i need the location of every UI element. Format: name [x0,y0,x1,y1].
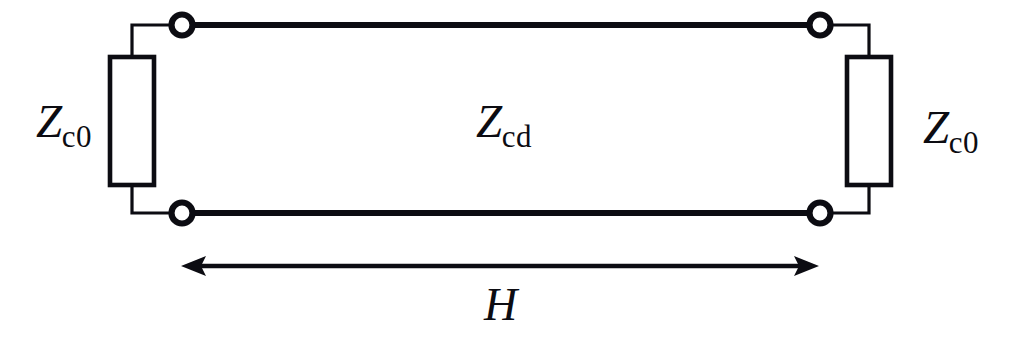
terminal-top-left [172,15,193,36]
terminal-bottom-right [810,203,831,224]
terminal-bottom-left [172,203,193,224]
circuit-schematic [0,0,1013,338]
Zc0-right-resistor [847,57,891,185]
Zc0-left-resistor [110,57,154,185]
terminal-top-right [810,15,831,36]
figure-root: Zc0 Zcd Zc0 H [0,0,1013,338]
